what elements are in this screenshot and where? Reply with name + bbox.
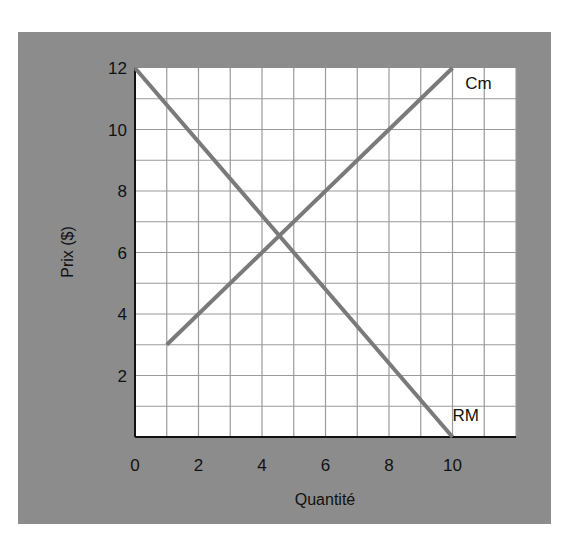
y-axis-label: Prix ($) [59,226,76,278]
x-tick-label: 6 [321,456,330,475]
x-tick-label: 4 [257,456,266,475]
y-tick-label: 12 [108,59,127,78]
y-tick-label: 10 [108,121,127,140]
y-tick-label: 4 [118,305,127,324]
y-tick-label: 2 [118,367,127,386]
x-tick-label: 2 [194,456,203,475]
x-tick-label: 10 [443,456,462,475]
y-tick-labels: 24681012 [108,59,127,386]
x-tick-label: 0 [130,456,139,475]
x-tick-labels: 0246810 [130,456,462,475]
curve-label-rm: RM [453,406,479,425]
curve-label-cm: Cm [465,74,491,93]
x-axis-label: Quantité [295,491,356,508]
y-tick-label: 8 [118,182,127,201]
chart-svg: 0246810 24681012 Quantité Prix ($) RMCm [0,0,566,545]
x-tick-label: 8 [384,456,393,475]
y-tick-label: 6 [118,244,127,263]
